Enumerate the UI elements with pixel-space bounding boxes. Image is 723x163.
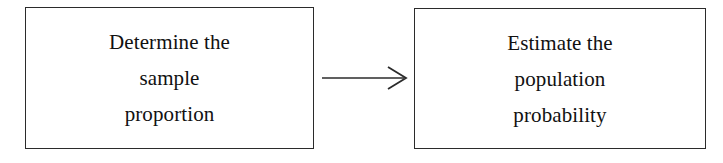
flow-diagram: Determine the sample proportion Estimate… bbox=[0, 0, 723, 163]
node-line-2: population bbox=[515, 61, 606, 97]
node-line-1: Determine the bbox=[109, 24, 230, 60]
node-estimate-population-probability[interactable]: Estimate the population probability bbox=[414, 8, 706, 149]
node-line-3: probability bbox=[513, 97, 606, 133]
arrow-right-icon bbox=[320, 62, 410, 94]
node-determine-sample-proportion[interactable]: Determine the sample proportion bbox=[25, 7, 314, 149]
node-line-3: proportion bbox=[125, 96, 215, 132]
node-line-2: sample bbox=[139, 60, 199, 96]
node-line-1: Estimate the bbox=[507, 25, 613, 61]
